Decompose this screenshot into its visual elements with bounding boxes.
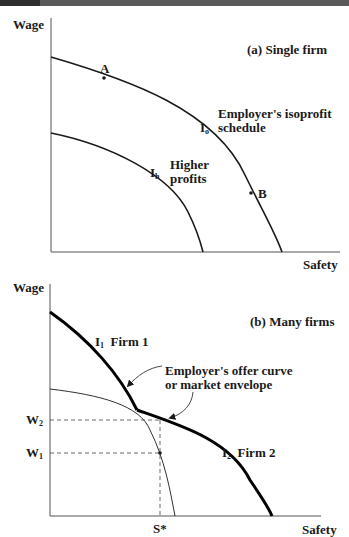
io-label: Io xyxy=(200,121,209,139)
isoprofit-annotation-line1: Employer's isoprofit xyxy=(218,107,332,121)
w2-label: W2 xyxy=(26,413,43,431)
panel-b-y-label: Wage xyxy=(13,281,44,295)
i1-label: I1 Firm 1 xyxy=(95,335,148,353)
s-star-label: S* xyxy=(153,522,167,536)
s-star-point xyxy=(158,451,162,455)
offer-curve-arrow-1 xyxy=(128,366,162,386)
higher-profits-line1: Higher xyxy=(170,158,209,172)
figure-canvas xyxy=(0,0,349,537)
i2-label: I2 Firm 2 xyxy=(222,446,275,464)
w1-label: W1 xyxy=(26,446,43,464)
offer-curve-annotation-line2: or market envelope xyxy=(165,378,272,392)
panel-b-title: (b) Many firms xyxy=(250,315,335,329)
isoprofit-curve-ih xyxy=(51,133,203,252)
offer-curve-annotation-line1: Employer's offer curve xyxy=(165,364,293,378)
point-b-label: B xyxy=(258,187,267,201)
point-a-marker xyxy=(102,76,106,80)
firm1-isoprofit-i1 xyxy=(50,312,137,410)
panel-a-y-label: Wage xyxy=(13,18,44,32)
panel-b-x-label: Safety xyxy=(302,523,337,537)
panel-a-x-label: Safety xyxy=(303,258,338,272)
panel-a-title: (a) Single firm xyxy=(247,43,327,57)
offer-curve-arrow-2 xyxy=(170,392,193,418)
point-b-marker xyxy=(249,191,253,195)
firm1-thin-curve xyxy=(50,389,175,516)
point-a-label: A xyxy=(100,62,109,76)
isoprofit-annotation-line2: schedule xyxy=(218,121,266,135)
isoprofit-curve-io xyxy=(51,57,282,252)
ih-label: Ih xyxy=(150,166,160,184)
higher-profits-line2: profits xyxy=(170,172,207,186)
